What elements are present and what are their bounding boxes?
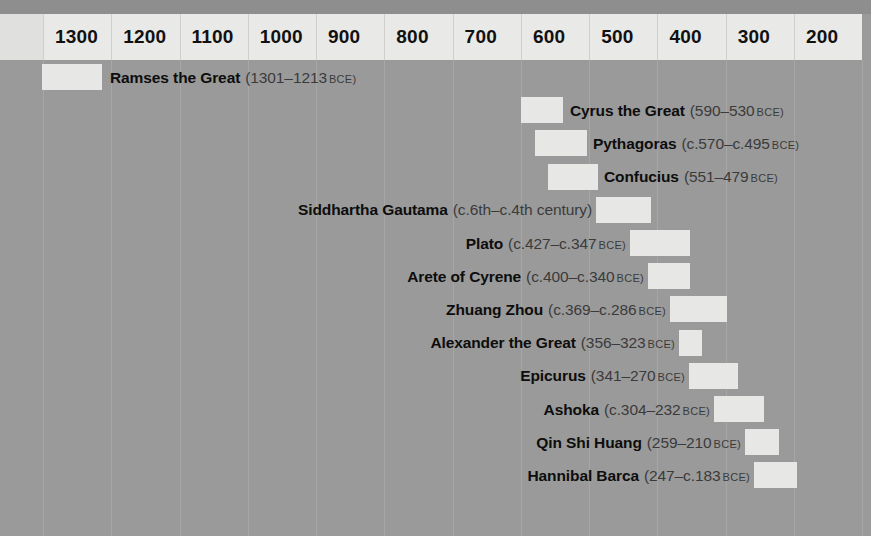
axis-tick-label: 1200 <box>123 26 166 48</box>
figure-label: Hannibal Barca(247–c.183BCE) <box>0 459 750 492</box>
figure-dates: (c.570–c.495BCE) <box>681 135 799 153</box>
axis-tick-label: 700 <box>465 26 497 48</box>
axis-tick-500: 500 <box>589 14 657 60</box>
figure-name: Hannibal Barca <box>528 467 639 485</box>
figure-name: Zhuang Zhou <box>446 301 543 319</box>
axis-tick-label: 1300 <box>55 26 98 48</box>
timeline-row[interactable]: Arete of Cyrene(c.400–c.340BCE) <box>0 260 871 293</box>
timeline-row[interactable]: Ramses the Great(1301–1213BCE) <box>0 61 871 94</box>
timeline-row[interactable]: Zhuang Zhou(c.369–c.286BCE) <box>0 293 871 326</box>
bce-suffix: BCE) <box>658 371 685 383</box>
lifespan-bar[interactable] <box>630 230 690 256</box>
figure-label: Ramses the Great(1301–1213BCE) <box>110 61 356 94</box>
bce-suffix: BCE) <box>617 272 644 284</box>
timeline-row[interactable]: Epicurus(341–270BCE) <box>0 360 871 393</box>
bce-suffix: BCE) <box>723 471 750 483</box>
figure-dates: (c.6th–c.4th century) <box>453 201 592 219</box>
figure-label: Pythagoras(c.570–c.495BCE) <box>593 127 799 160</box>
axis-tick-label: 400 <box>669 26 701 48</box>
timeline-row[interactable]: Hannibal Barca(247–c.183BCE) <box>0 459 871 492</box>
figure-label: Qin Shi Huang(259–210BCE) <box>0 426 741 459</box>
lifespan-bar[interactable] <box>521 97 563 123</box>
figure-label: Siddhartha Gautama(c.6th–c.4th century) <box>0 194 592 227</box>
lifespan-bar[interactable] <box>754 462 797 488</box>
figure-dates: (c.400–c.340BCE) <box>526 268 644 286</box>
figure-name: Arete of Cyrene <box>407 268 521 286</box>
axis-tick-900: 900 <box>316 14 384 60</box>
figure-name: Ashoka <box>544 401 599 419</box>
axis-tick-700: 700 <box>453 14 521 60</box>
figure-label: Arete of Cyrene(c.400–c.340BCE) <box>0 260 644 293</box>
axis-tick-600: 600 <box>521 14 589 60</box>
lifespan-bar[interactable] <box>689 363 738 389</box>
timeline-row[interactable]: Confucius(551–479BCE) <box>0 161 871 194</box>
axis-tick-label: 1000 <box>260 26 303 48</box>
timeline-row[interactable]: Qin Shi Huang(259–210BCE) <box>0 426 871 459</box>
lifespan-bar[interactable] <box>548 164 598 190</box>
axis-tick-label: 600 <box>533 26 565 48</box>
figure-name: Ramses the Great <box>110 69 240 87</box>
lifespan-bar[interactable] <box>535 130 587 156</box>
figure-name: Alexander the Great <box>430 334 575 352</box>
lifespan-bar[interactable] <box>679 330 702 356</box>
figure-dates: (356–323BCE) <box>581 334 675 352</box>
figure-label: Cyrus the Great(590–530BCE) <box>570 94 784 127</box>
lifespan-bar[interactable] <box>42 64 102 90</box>
bce-suffix: BCE) <box>714 438 741 450</box>
axis-tick-label: 1100 <box>192 26 234 48</box>
lifespan-bar[interactable] <box>714 396 764 422</box>
figure-label: Epicurus(341–270BCE) <box>0 360 685 393</box>
figure-dates: (259–210BCE) <box>647 434 741 452</box>
figure-dates: (341–270BCE) <box>591 367 685 385</box>
axis-tick-1000: 1000 <box>248 14 316 60</box>
timeline-row[interactable]: Ashoka(c.304–232BCE) <box>0 393 871 426</box>
figure-label: Plato(c.427–c.347BCE) <box>0 227 626 260</box>
figure-name: Pythagoras <box>593 135 676 153</box>
bce-suffix: BCE) <box>772 139 799 151</box>
lifespan-bar[interactable] <box>670 296 727 322</box>
figure-dates: (1301–1213BCE) <box>245 69 356 87</box>
bce-suffix: BCE) <box>639 305 666 317</box>
figure-label: Ashoka(c.304–232BCE) <box>0 393 710 426</box>
axis-tick-label: 300 <box>738 26 770 48</box>
figure-name: Epicurus <box>520 367 586 385</box>
axis-header-left-pad <box>0 14 43 60</box>
bce-suffix: BCE) <box>751 172 778 184</box>
axis-tick-label: 500 <box>601 26 633 48</box>
figure-name: Confucius <box>604 168 679 186</box>
timeline-row[interactable]: Alexander the Great(356–323BCE) <box>0 327 871 360</box>
bce-suffix: BCE) <box>329 73 356 85</box>
timeline-row[interactable]: Siddhartha Gautama(c.6th–c.4th century) <box>0 194 871 227</box>
lifespan-bar[interactable] <box>745 429 779 455</box>
lifespan-bar[interactable] <box>596 197 651 223</box>
figure-name: Plato <box>466 235 503 253</box>
figure-dates: (c.304–232BCE) <box>604 401 710 419</box>
axis-tick-label: 900 <box>328 26 360 48</box>
axis-tick-800: 800 <box>384 14 452 60</box>
figure-dates: (247–c.183BCE) <box>644 467 750 485</box>
bce-suffix: BCE) <box>683 405 710 417</box>
figure-name: Qin Shi Huang <box>536 434 641 452</box>
timeline-row[interactable]: Cyrus the Great(590–530BCE) <box>0 94 871 127</box>
figure-label: Alexander the Great(356–323BCE) <box>0 327 675 360</box>
bce-suffix: BCE) <box>648 338 675 350</box>
axis-tick-1300: 1300 <box>43 14 111 60</box>
axis-tick-label: 800 <box>396 26 428 48</box>
figure-name: Cyrus the Great <box>570 102 685 120</box>
axis-tick-label: 200 <box>806 26 838 48</box>
bce-suffix: BCE) <box>599 239 626 251</box>
figure-dates: (c.369–c.286BCE) <box>548 301 666 319</box>
axis-tick-1100: 1100 <box>180 14 248 60</box>
lifespan-bar[interactable] <box>648 263 690 289</box>
figure-dates: (590–530BCE) <box>690 102 784 120</box>
timeline-row[interactable]: Plato(c.427–c.347BCE) <box>0 227 871 260</box>
axis-tick-1200: 1200 <box>111 14 179 60</box>
bce-suffix: BCE) <box>757 106 784 118</box>
axis-tick-300: 300 <box>726 14 794 60</box>
figure-name: Siddhartha Gautama <box>298 201 448 219</box>
top-strip <box>0 0 871 14</box>
timeline-row[interactable]: Pythagoras(c.570–c.495BCE) <box>0 127 871 160</box>
timeline-chart: 1300120011001000900800700600500400300200… <box>0 0 871 536</box>
axis-tick-400: 400 <box>657 14 725 60</box>
figure-label: Confucius(551–479BCE) <box>604 161 778 194</box>
